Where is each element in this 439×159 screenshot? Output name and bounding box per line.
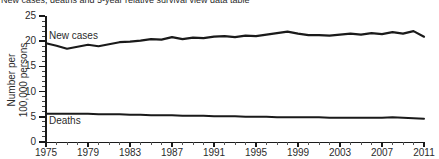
series-label-new-cases: New cases: [48, 31, 99, 41]
series-label-deaths: Deaths: [48, 116, 82, 126]
line-new-cases: [46, 31, 424, 49]
line-deaths: [46, 114, 424, 119]
